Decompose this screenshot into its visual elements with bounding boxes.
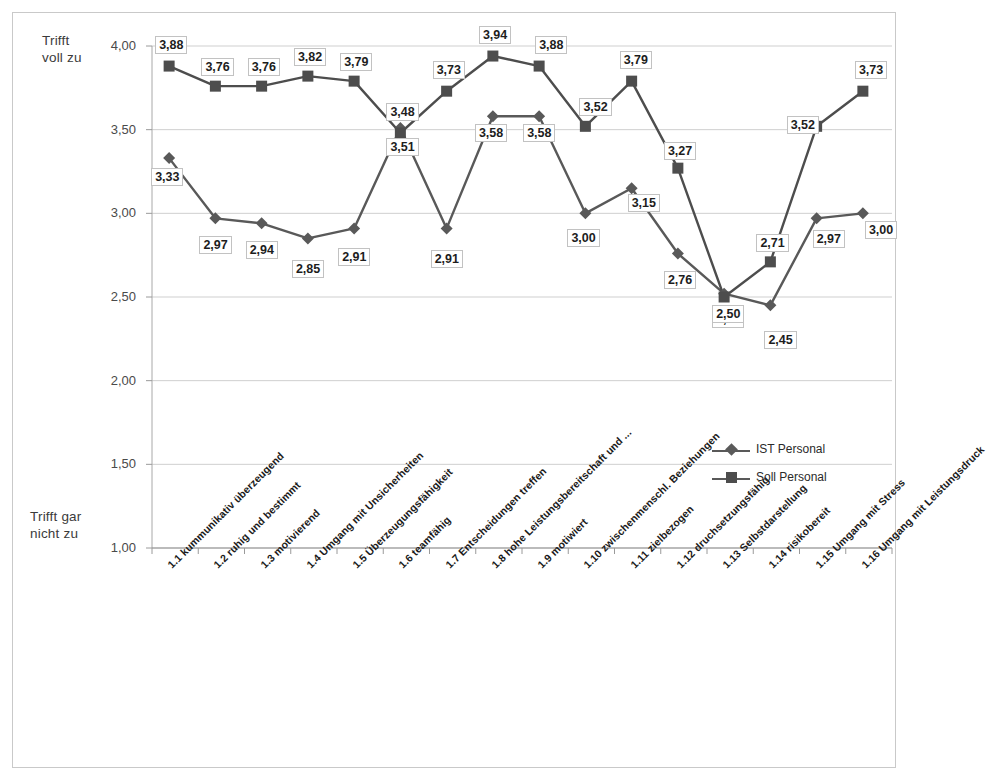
data-point-label: 3,52 — [579, 98, 611, 116]
legend-label-soll: Soll Personal — [756, 470, 827, 484]
data-point-label: 3,82 — [294, 48, 326, 66]
data-point-label: 2,97 — [813, 230, 845, 248]
data-point-label: 3,58 — [523, 124, 555, 142]
data-point-label: 3,79 — [340, 53, 372, 71]
data-point-label: 3,88 — [155, 36, 187, 54]
data-point-label: 3,58 — [475, 124, 507, 142]
data-point-label: 3,52 — [787, 116, 819, 134]
series-markers — [163, 51, 869, 312]
data-point-label: 2,50 — [712, 305, 744, 323]
data-point-label: 3,79 — [620, 51, 652, 69]
data-point-label: 3,15 — [628, 194, 660, 212]
series-lines — [169, 56, 863, 305]
data-point-label: 3,73 — [433, 61, 465, 79]
data-point-label: 3,73 — [855, 61, 887, 79]
data-point-label: 2,85 — [292, 260, 324, 278]
data-point-label: 2,45 — [764, 331, 796, 349]
y-axis-tick-label: 1,50 — [90, 456, 136, 471]
y-axis-tick-label: 2,00 — [90, 373, 136, 388]
square-marker-icon — [726, 472, 737, 483]
data-point-label: 3,94 — [479, 26, 511, 44]
y-axis-tick-label: 4,00 — [90, 38, 136, 53]
data-point-label: 2,94 — [246, 241, 278, 259]
data-point-label: 3,00 — [567, 229, 599, 247]
data-point-label: 3,88 — [535, 36, 567, 54]
legend-label-ist: IST Personal — [756, 442, 825, 456]
axis-caption-bottom: Trifft gar nicht zu — [30, 508, 82, 542]
legend-item-soll[interactable]: Soll Personal — [712, 465, 862, 493]
data-point-label: 2,97 — [199, 236, 231, 254]
y-axis-tick-label: 2,50 — [90, 289, 136, 304]
data-point-label: 3,27 — [664, 142, 696, 160]
data-point-label: 3,76 — [248, 58, 280, 76]
y-axis-tick-label: 3,00 — [90, 205, 136, 220]
data-point-label: 3,48 — [386, 103, 418, 121]
data-point-label: 2,91 — [431, 250, 463, 268]
data-point-label: 2,76 — [664, 271, 696, 289]
legend-item-ist[interactable]: IST Personal — [712, 437, 862, 465]
data-point-label: 3,00 — [865, 221, 897, 239]
data-point-label: 3,76 — [201, 58, 233, 76]
diamond-marker-icon — [725, 443, 738, 456]
y-axis-tick-label: 1,00 — [90, 540, 136, 555]
data-point-label: 2,71 — [756, 234, 788, 252]
data-point-label: 3,33 — [151, 168, 183, 186]
data-point-label: 3,51 — [386, 138, 418, 156]
data-point-label: 2,91 — [338, 248, 370, 266]
y-axis-tick-label: 3,50 — [90, 122, 136, 137]
axis-caption-top: Trifft voll zu — [42, 32, 82, 66]
chart-legend: IST Personal Soll Personal — [712, 437, 862, 495]
